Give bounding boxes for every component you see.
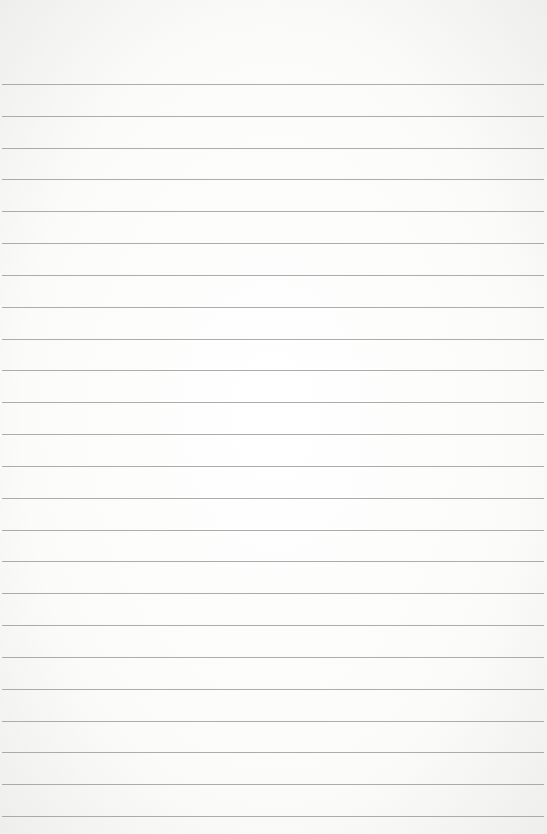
ruled-line [2,816,544,817]
ruled-line [2,179,544,180]
ruled-line [2,530,544,531]
ruled-line [2,752,544,753]
ruled-line [2,593,544,594]
ruled-line [2,275,544,276]
ruled-line [2,784,544,785]
ruled-line [2,434,544,435]
ruled-line [2,339,544,340]
ruled-line [2,625,544,626]
ruled-line [2,689,544,690]
ruled-line [2,84,544,85]
ruled-line [2,211,544,212]
ruled-line [2,148,544,149]
ruled-line [2,116,544,117]
ruled-line [2,307,544,308]
ruled-line [2,466,544,467]
ruled-line [2,498,544,499]
ruled-line [2,561,544,562]
ruled-line [2,370,544,371]
ruled-line [2,402,544,403]
lined-paper-sheet [0,0,547,834]
ruled-line [2,721,544,722]
ruled-line [2,243,544,244]
ruled-line [2,657,544,658]
